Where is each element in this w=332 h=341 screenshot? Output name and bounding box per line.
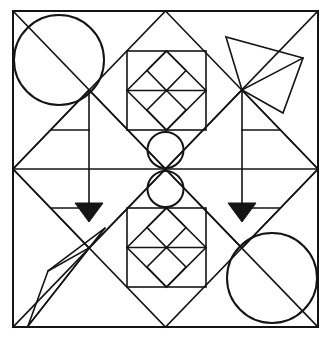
figure-canvas — [0, 0, 332, 341]
geometric-figure-svg — [0, 0, 332, 341]
